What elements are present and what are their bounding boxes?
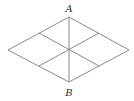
rhombus-diagram: A B [0,0,134,101]
label-b: B [64,87,72,98]
label-a: A [64,3,72,14]
